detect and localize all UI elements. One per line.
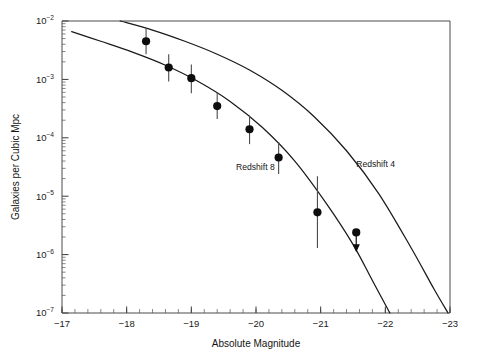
x-tick-label: −20 — [248, 318, 264, 329]
figure-container: −17−18−19−20−21−22−23 10−210−310−410−510… — [0, 0, 479, 363]
data-point — [213, 102, 221, 110]
y-axis-tick-labels: 10−210−310−410−510−610−7 — [36, 14, 54, 318]
y-tick-label: 10−3 — [36, 73, 54, 85]
data-point — [313, 208, 321, 216]
y-tick-label: 10−5 — [36, 189, 54, 201]
redshift-8-label: Redshift 8 — [236, 162, 275, 172]
x-tick-label: −17 — [54, 318, 70, 329]
x-tick-label: −18 — [119, 318, 135, 329]
redshift-4-label: Redshift 4 — [356, 159, 395, 169]
upper-limit-markers — [352, 228, 360, 251]
x-tick-label: −21 — [313, 318, 329, 329]
data-point — [142, 37, 150, 45]
x-tick-label: −23 — [442, 318, 458, 329]
x-tick-label: −19 — [183, 318, 199, 329]
upper-limit-arrow-head — [354, 245, 359, 251]
x-tick-label: −22 — [377, 318, 393, 329]
y-tick-label: 10−2 — [36, 14, 54, 26]
luminosity-function-chart: −17−18−19−20−21−22−23 10−210−310−410−510… — [0, 0, 479, 363]
y-axis-major-ticks — [62, 21, 69, 313]
x-axis-title: Absolute Magnitude — [212, 338, 301, 349]
x-axis-major-ticks — [62, 307, 450, 314]
upper-limit-marker — [352, 228, 360, 236]
y-axis-title: Galaxies per Cubic Mpc — [10, 114, 21, 220]
y-tick-label: 10−6 — [36, 248, 54, 260]
data-point — [245, 125, 253, 133]
curve-annotations: Redshift 8Redshift 4 — [236, 159, 395, 173]
data-points — [142, 37, 322, 216]
y-tick-label: 10−7 — [36, 306, 54, 318]
y-tick-label: 10−4 — [36, 131, 54, 143]
data-point — [165, 63, 173, 71]
data-point — [275, 153, 283, 161]
data-point — [187, 74, 195, 82]
model-curve-redshift-8-model — [72, 32, 390, 313]
x-axis-tick-labels: −17−18−19−20−21−22−23 — [54, 318, 458, 329]
